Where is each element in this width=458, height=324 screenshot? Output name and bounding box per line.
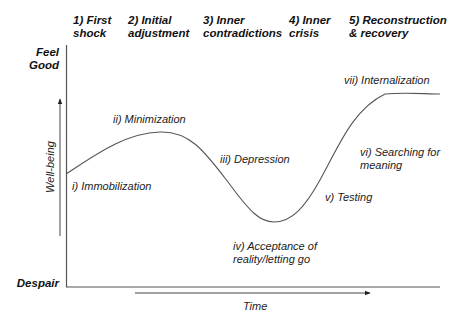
phase-searching-for-meaning: vi) Searching for meaning bbox=[360, 146, 440, 172]
phase-minimization: ii) Minimization bbox=[113, 113, 186, 126]
phase-vi-line2: meaning bbox=[360, 159, 440, 172]
despair-label: Despair bbox=[17, 277, 59, 290]
stage-3-line1: 3) Inner bbox=[203, 14, 282, 27]
stage-2-line2: adjustment bbox=[128, 27, 189, 40]
x-axis-label: Time bbox=[243, 300, 267, 312]
y-axis-label: Well-being bbox=[44, 137, 56, 197]
stage-5-line2: & recovery bbox=[349, 27, 447, 40]
phase-testing: v) Testing bbox=[325, 191, 372, 204]
stage-3-line2: contradictions bbox=[203, 27, 282, 40]
stage-2-label: 2) Initial adjustment bbox=[128, 14, 189, 40]
phase-v-text: v) Testing bbox=[325, 191, 372, 203]
phase-ii-text: ii) Minimization bbox=[113, 113, 186, 125]
phase-vi-line1: vi) Searching for bbox=[360, 146, 440, 159]
feel-good-label: Feel Good bbox=[29, 46, 59, 72]
good-label: Good bbox=[29, 59, 59, 72]
stage-5-line1: 5) Reconstruction bbox=[349, 14, 447, 27]
phase-iv-line1: iv) Acceptance of bbox=[233, 240, 317, 253]
phase-i-text: i) Immobilization bbox=[72, 180, 151, 192]
phase-iii-text: iii) Depression bbox=[220, 153, 290, 165]
phase-iv-line2: reality/letting go bbox=[233, 253, 317, 266]
stage-5-label: 5) Reconstruction & recovery bbox=[349, 14, 447, 40]
stage-4-line2: crisis bbox=[289, 27, 331, 40]
stage-3-label: 3) Inner contradictions bbox=[203, 14, 282, 40]
phase-immobilization: i) Immobilization bbox=[72, 180, 151, 193]
despair-text: Despair bbox=[17, 277, 59, 289]
stage-1-label: 1) First shock bbox=[73, 14, 111, 40]
y-axis-text: Well-being bbox=[44, 141, 56, 193]
stage-4-label: 4) Inner crisis bbox=[289, 14, 331, 40]
stage-2-line1: 2) Initial bbox=[128, 14, 189, 27]
phase-acceptance: iv) Acceptance of reality/letting go bbox=[233, 240, 317, 266]
phase-vii-text: vii) Internalization bbox=[344, 74, 430, 86]
phase-depression: iii) Depression bbox=[220, 153, 290, 166]
feel-label: Feel bbox=[29, 46, 59, 59]
x-axis-text: Time bbox=[243, 300, 267, 312]
stage-1-line2: shock bbox=[73, 27, 111, 40]
stage-4-line1: 4) Inner bbox=[289, 14, 331, 27]
phase-internalization: vii) Internalization bbox=[344, 74, 430, 87]
stage-1-line1: 1) First bbox=[73, 14, 111, 27]
